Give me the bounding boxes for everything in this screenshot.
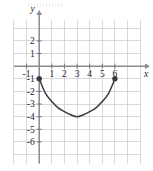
x-tick-label: 3	[75, 69, 80, 79]
x-tick-label: 4	[87, 69, 92, 79]
y-tick-label: -6	[27, 137, 35, 147]
endpoint-dot	[112, 76, 117, 81]
x-axis-label: x	[143, 69, 149, 79]
y-tick-label: -3	[27, 99, 35, 109]
y-axis-label: y	[30, 4, 36, 14]
y-tick-label: 2	[30, 36, 35, 46]
graph-figure: -1123456 21-1-2-3-4-5-6 x y	[0, 0, 153, 171]
y-tick-label: -1	[27, 74, 35, 84]
y-tick-label: -5	[27, 125, 35, 135]
y-tick-label: -4	[27, 112, 35, 122]
coordinate-plane-svg: -1123456 21-1-2-3-4-5-6 x y	[0, 0, 153, 171]
y-tick-label: -2	[27, 87, 35, 97]
endpoint-dot	[37, 76, 42, 81]
x-tick-label: 5	[100, 69, 105, 79]
x-tick-label: 2	[62, 69, 67, 79]
y-tick-label: 1	[30, 49, 35, 59]
plot-background	[0, 0, 153, 171]
x-tick-label: 1	[49, 69, 54, 79]
